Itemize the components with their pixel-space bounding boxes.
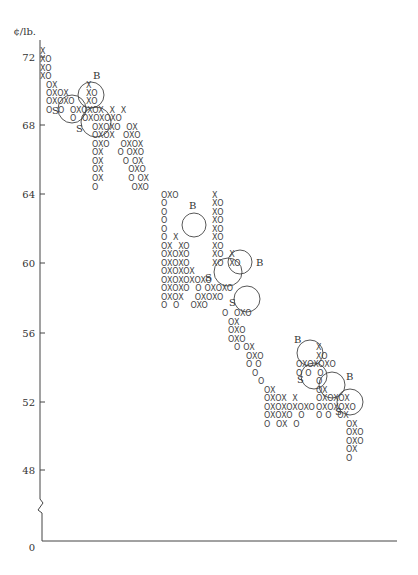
y-axis-ticks: 72686460565248 <box>22 52 45 476</box>
sell-signal-label: S <box>52 105 59 116</box>
pf-row: XO <box>86 97 98 106</box>
pf-row: OXOX X <box>264 394 298 403</box>
pf-row: O OXO <box>222 309 252 318</box>
pf-row: OX O OX <box>92 174 150 183</box>
pf-row: XO <box>40 72 52 81</box>
pf-row: OX <box>346 445 358 454</box>
y-axis <box>38 40 43 541</box>
pf-row: OXOXOX <box>316 394 350 403</box>
pf-row: XO <box>212 233 224 242</box>
tick-label: 56 <box>22 328 35 339</box>
buy-signal-label: B <box>189 200 196 211</box>
pf-row: OX O OXO <box>92 148 144 157</box>
tick-label: 60 <box>22 258 35 269</box>
pf-row: O <box>161 216 168 225</box>
pf-row: XO <box>40 55 52 64</box>
y-axis-unit-label: ¢/lb. <box>13 26 36 37</box>
sell-signal-label: S <box>229 297 236 308</box>
tick-label: 72 <box>22 52 35 63</box>
origin-label: 0 <box>29 542 35 553</box>
pf-row: OXOXO <box>161 250 190 259</box>
pf-row: OXOXOX <box>161 267 195 276</box>
buy-signal-circle <box>182 213 206 237</box>
buy-signal-label: B <box>294 334 301 345</box>
pf-row: OXOX OXO <box>92 131 141 140</box>
pf-row: O <box>258 377 265 386</box>
buy-signal-label: B <box>256 257 263 268</box>
pf-row: O O OX <box>316 411 349 420</box>
pf-row: O O OXO <box>161 301 208 310</box>
pf-row: OXO <box>346 428 364 437</box>
pf-row: XO <box>212 199 224 208</box>
pf-row: X <box>316 343 322 352</box>
pf-row: O OX <box>234 343 255 352</box>
pf-row: O OXO <box>92 183 149 192</box>
tick-label: 64 <box>22 189 35 200</box>
tick-label: 52 <box>22 397 35 408</box>
pf-row: O <box>346 454 353 463</box>
tick-label: 68 <box>22 120 35 131</box>
pf-row: OXOXO O <box>264 411 305 420</box>
sell-signal-label: S <box>76 123 83 134</box>
point-and-figure-chart: ¢/lb. 72686460565248 0 XXOXOXOOXOXOXOXOX… <box>0 0 418 575</box>
sell-signal-label: S <box>205 272 212 283</box>
pf-row: OXO <box>228 326 246 335</box>
sell-signal-label: S <box>335 406 342 417</box>
pf-row: XO <box>212 216 224 225</box>
pf-row: XO X <box>212 250 235 259</box>
pf-row: OX OXO <box>92 165 146 174</box>
pf-row: O <box>161 199 168 208</box>
pf-row: O O <box>246 360 262 369</box>
pf-row: O OX O <box>264 420 300 429</box>
pf-row: O X <box>161 233 179 242</box>
tick-label: 48 <box>22 465 35 476</box>
buy-signal-label: B <box>93 70 100 81</box>
sell-signal-label: S <box>297 374 304 385</box>
buy-signal-label: B <box>346 371 353 382</box>
